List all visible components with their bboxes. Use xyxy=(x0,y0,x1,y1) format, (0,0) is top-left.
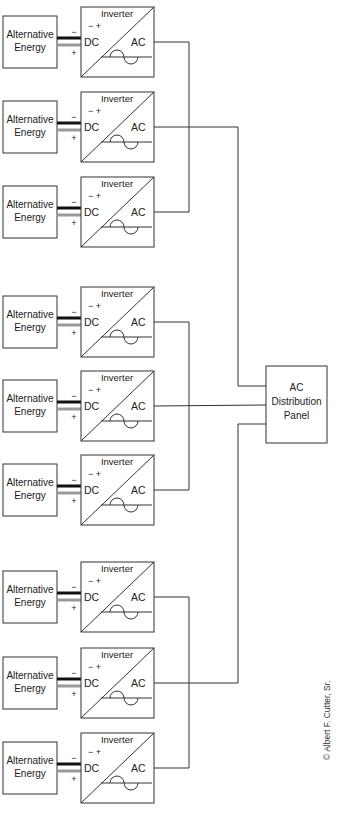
minus-sign: − xyxy=(71,475,76,485)
source-label: Alternative xyxy=(6,29,54,40)
inverter-title: Inverter xyxy=(101,563,133,574)
inverter-unit: AlternativeEnergy−+Inverter− +DCAC xyxy=(3,177,154,247)
polarity-symbols: − + xyxy=(88,385,101,395)
minus-sign: − xyxy=(71,197,76,207)
source-label: Alternative xyxy=(6,199,54,210)
source-label: Energy xyxy=(14,597,46,608)
minus-sign: − xyxy=(71,582,76,592)
source-label: Alternative xyxy=(6,755,54,766)
dc-label: DC xyxy=(84,36,100,48)
ac-label: AC xyxy=(131,484,146,496)
dc-label: DC xyxy=(84,121,100,133)
plus-sign: + xyxy=(71,412,76,422)
source-label: Energy xyxy=(14,322,46,333)
dc-label: DC xyxy=(84,400,100,412)
inverter-unit: AlternativeEnergy−+Inverter− +DCAC xyxy=(3,733,154,803)
minus-sign: − xyxy=(71,668,76,678)
minus-sign: − xyxy=(71,753,76,763)
source-label: Energy xyxy=(14,490,46,501)
inverter-title: Inverter xyxy=(101,93,133,104)
ac-label: AC xyxy=(131,762,146,774)
panel-label-line-3: Panel xyxy=(284,410,310,421)
inverter-title: Inverter xyxy=(101,178,133,189)
source-label: Alternative xyxy=(6,309,54,320)
polarity-symbols: − + xyxy=(88,106,101,116)
inverter-unit: AlternativeEnergy−+Inverter− +DCAC xyxy=(3,371,154,441)
polarity-symbols: − + xyxy=(88,576,101,586)
inverter-units: AlternativeEnergy−+Inverter− +DCACAltern… xyxy=(3,7,154,803)
polarity-symbols: − + xyxy=(88,469,101,479)
dc-label: DC xyxy=(84,591,100,603)
inverter-unit: AlternativeEnergy−+Inverter− +DCAC xyxy=(3,455,154,525)
inverter-title: Inverter xyxy=(101,372,133,383)
plus-sign: + xyxy=(71,774,76,784)
inverter-title: Inverter xyxy=(101,8,133,19)
source-label: Energy xyxy=(14,42,46,53)
inverter-title: Inverter xyxy=(101,288,133,299)
source-label: Energy xyxy=(14,683,46,694)
dc-label: DC xyxy=(84,677,100,689)
source-label: Alternative xyxy=(6,584,54,595)
dc-label: DC xyxy=(84,762,100,774)
feeder-wire-group-3 xyxy=(154,424,266,683)
minus-sign: − xyxy=(71,307,76,317)
ac-label: AC xyxy=(131,591,146,603)
ac-distribution-panel: AC Distribution Panel xyxy=(266,366,327,443)
minus-sign: − xyxy=(71,112,76,122)
inverter-unit: AlternativeEnergy−+Inverter− +DCAC xyxy=(3,562,154,632)
ac-wiring xyxy=(154,42,266,768)
inverter-unit: AlternativeEnergy−+Inverter− +DCAC xyxy=(3,92,154,162)
plus-sign: + xyxy=(71,133,76,143)
source-label: Energy xyxy=(14,212,46,223)
dc-label: DC xyxy=(84,484,100,496)
ac-label: AC xyxy=(131,400,146,412)
polarity-symbols: − + xyxy=(88,301,101,311)
polarity-symbols: − + xyxy=(88,747,101,757)
polarity-symbols: − + xyxy=(88,662,101,672)
source-label: Energy xyxy=(14,127,46,138)
plus-sign: + xyxy=(71,603,76,613)
inverter-title: Inverter xyxy=(101,649,133,660)
panel-label-line-2: Distribution xyxy=(271,396,321,407)
inverter-unit: AlternativeEnergy−+Inverter− +DCAC xyxy=(3,648,154,718)
polarity-symbols: − + xyxy=(88,21,101,31)
plus-sign: + xyxy=(71,689,76,699)
ac-label: AC xyxy=(131,121,146,133)
feeder-wire-group-2 xyxy=(154,405,266,406)
plus-sign: + xyxy=(71,328,76,338)
source-label: Energy xyxy=(14,406,46,417)
inverter-unit: AlternativeEnergy−+Inverter− +DCAC xyxy=(3,287,154,357)
polarity-symbols: − + xyxy=(88,191,101,201)
source-label: Energy xyxy=(14,768,46,779)
ac-label: AC xyxy=(131,206,146,218)
minus-sign: − xyxy=(71,391,76,401)
source-label: Alternative xyxy=(6,670,54,681)
source-label: Alternative xyxy=(6,114,54,125)
source-label: Alternative xyxy=(6,477,54,488)
inverter-unit: AlternativeEnergy−+Inverter− +DCAC xyxy=(3,7,154,77)
minus-sign: − xyxy=(71,27,76,37)
diagram-canvas: AlternativeEnergy−+Inverter− +DCACAltern… xyxy=(0,0,343,819)
plus-sign: + xyxy=(71,218,76,228)
dc-label: DC xyxy=(84,206,100,218)
ac-label: AC xyxy=(131,36,146,48)
copyright-credit: © Albert F. Cutter, Sr. xyxy=(322,681,332,761)
plus-sign: + xyxy=(71,48,76,58)
ac-label: AC xyxy=(131,316,146,328)
panel-label-line-1: AC xyxy=(290,382,304,393)
feeder-wire-group-1 xyxy=(154,127,266,386)
inverter-title: Inverter xyxy=(101,456,133,467)
plus-sign: + xyxy=(71,496,76,506)
ac-label: AC xyxy=(131,677,146,689)
dc-label: DC xyxy=(84,316,100,328)
inverter-title: Inverter xyxy=(101,734,133,745)
source-label: Alternative xyxy=(6,393,54,404)
